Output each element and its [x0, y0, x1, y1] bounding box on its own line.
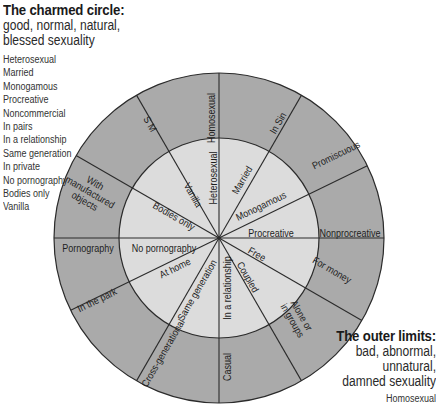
- list-item: Homosexual: [292, 392, 436, 405]
- list-item: Monogamous: [3, 80, 138, 93]
- list-item: Noncommercial: [3, 107, 138, 120]
- outer-segment-label: Pornography: [62, 242, 114, 254]
- inner-segment-label: In a relationship: [221, 256, 233, 319]
- charmed-circle-subtitle-line: good, normal, natural,: [3, 18, 132, 33]
- list-item: Married: [3, 66, 138, 79]
- list-item: Heterosexual: [3, 53, 138, 66]
- charmed-circle-title: The charmed circle:: [3, 1, 135, 18]
- list-item: In a relationship: [3, 133, 138, 146]
- outer-limits-subtitle-line: unnatural,: [298, 359, 436, 374]
- outer-limits-subtitle-line: bad, abnormal,: [298, 344, 436, 359]
- charmed-circle-legend: The charmed circle: good, normal, natura…: [3, 1, 153, 230]
- list-item: Bodies only: [3, 187, 138, 200]
- outer-limits-title: The outer limits:: [295, 327, 436, 344]
- list-item: In private: [3, 160, 138, 173]
- list-item: Vanilla: [3, 200, 138, 213]
- list-item: Procreative: [3, 93, 138, 106]
- charmed-circle-subtitle-line: blessed sexuality: [3, 33, 132, 48]
- outer-limits-subtitle-line: damned sexuality: [298, 374, 436, 389]
- list-item: Same generation: [3, 147, 138, 160]
- charmed-circle-list: Heterosexual Married Monogamous Procreat…: [3, 53, 153, 214]
- outer-segment-label: Nonprocreative: [320, 227, 381, 239]
- list-item: No pornography: [3, 174, 138, 187]
- outer-segment-label: Homosexual: [205, 93, 217, 143]
- outer-limits-legend: The outer limits: bad, abnormal, unnatur…: [276, 327, 436, 420]
- inner-segment-label: Heterosexual: [207, 152, 219, 205]
- outer-segment-label: Casual: [221, 353, 233, 381]
- inner-segment-label: No pornography: [132, 242, 197, 254]
- outer-limits-list: Homosexual: [276, 392, 436, 405]
- list-item: In pairs: [3, 120, 138, 133]
- inner-segment-label: Procreative: [248, 227, 293, 239]
- center-hub: [217, 236, 221, 240]
